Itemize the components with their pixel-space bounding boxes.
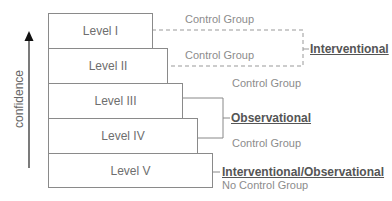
observational-label: Observational [231, 111, 311, 125]
level-label: Level I [83, 24, 118, 38]
level-iv-group: Control Group [232, 137, 301, 149]
level-i-box: Level I [48, 13, 153, 49]
level-label: Level V [110, 164, 150, 178]
level-label: Level IV [101, 129, 144, 143]
axis-label: confidence [12, 69, 26, 129]
level-v-group: No Control Group [222, 179, 308, 191]
level-ii-box: Level II [48, 48, 168, 84]
level-label: Level III [94, 94, 136, 108]
level-v-box: Level V [48, 153, 213, 188]
level-i-group: Control Group [185, 13, 254, 25]
arrow-up-icon [25, 31, 34, 41]
level-iv-box: Level IV [48, 118, 198, 154]
level-iii-box: Level III [48, 83, 183, 119]
interventional-observational-label: Interventional/Observational [222, 165, 384, 179]
level-iii-group: Control Group [232, 77, 301, 89]
level-ii-group: Control Group [185, 49, 254, 61]
interventional-label: Interventional [310, 42, 389, 56]
level-label: Level II [89, 59, 128, 73]
